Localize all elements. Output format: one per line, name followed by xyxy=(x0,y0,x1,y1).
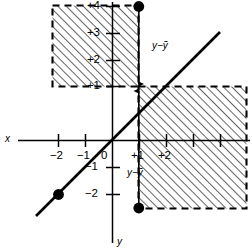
x-tick-label-plus1: +1 xyxy=(131,150,144,162)
lower-right-hatched-region xyxy=(139,87,247,209)
figure-canvas: +4 +3 +2 +1 −1 −2 −2 −1 +1 +2 0 x y y−ỹ … xyxy=(0,0,252,250)
lower-left-point xyxy=(53,189,64,200)
x-tick-label-plus2: +2 xyxy=(158,150,171,162)
origin-label: 0 xyxy=(101,150,107,162)
y-tick-label-minus1: −1 xyxy=(85,161,98,173)
upper-left-hatched-region xyxy=(53,6,139,87)
y-tick-label-plus4: +4 xyxy=(87,0,100,12)
y-tick-label-plus3: +3 xyxy=(87,27,100,39)
upper-region-label: y−ỹ xyxy=(152,41,168,51)
plot-svg xyxy=(0,0,252,250)
x-tick-label-minus1: −1 xyxy=(77,150,90,162)
upper-corner-point xyxy=(133,1,144,12)
lower-region-label: y−ỹ xyxy=(127,168,143,178)
x-axis-label: x xyxy=(5,134,10,144)
lower-corner-point xyxy=(133,203,144,214)
x-tick-label-minus2: −2 xyxy=(50,150,63,162)
y-tick-label-plus2: +2 xyxy=(87,54,100,66)
y-tick-label-plus1: +1 xyxy=(87,80,100,92)
y-tick-label-minus2: −2 xyxy=(85,188,98,200)
y-axis-label: y xyxy=(117,237,122,247)
